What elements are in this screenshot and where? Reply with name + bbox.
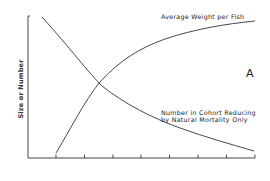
x-ticks [56, 155, 255, 159]
number-in-cohort-label-line1: Number in Cohort Reducing [161, 109, 256, 116]
panel-label: A [246, 67, 254, 80]
chart-canvas [0, 0, 270, 181]
average-weight-curve [56, 21, 255, 153]
number-in-cohort-curve [42, 17, 254, 151]
axes [28, 16, 255, 158]
y-axis [28, 16, 30, 158]
number-in-cohort-label-line2: by Natural Mortality Only [161, 116, 248, 123]
average-weight-label: Average Weight per Fish [161, 13, 244, 20]
y-axis-label: Size or Number [17, 59, 27, 119]
